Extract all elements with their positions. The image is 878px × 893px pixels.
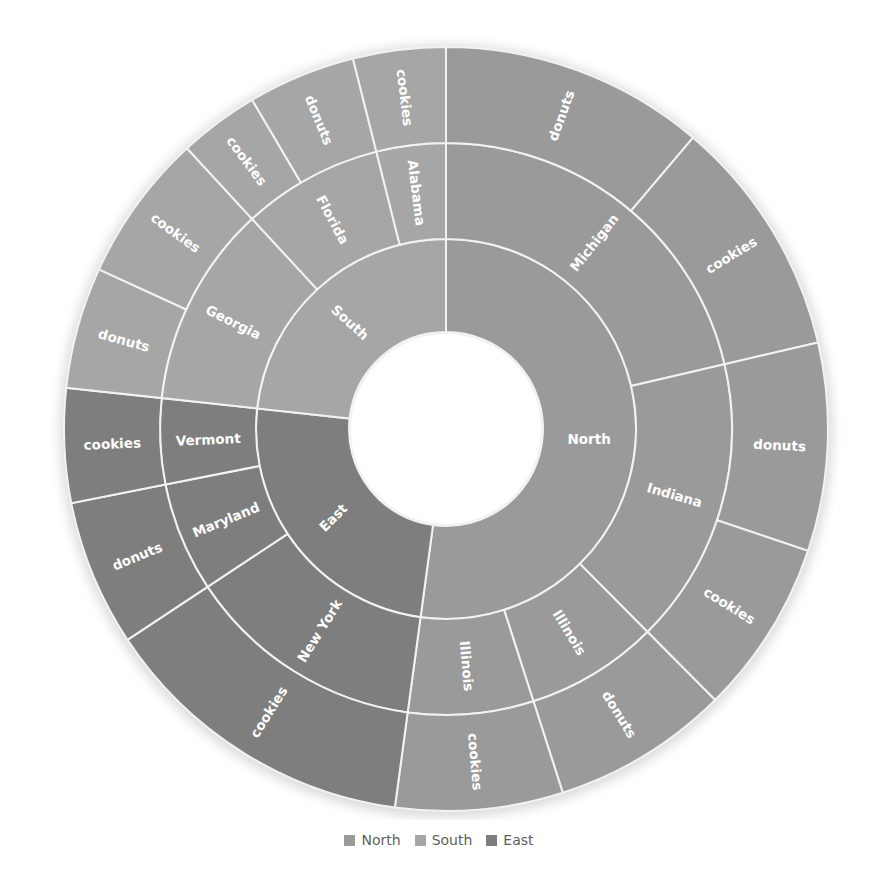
label-east-vermont-2-cookies-0: cookies [83,434,141,452]
legend-swatch-east [486,835,497,846]
legend-label-south: South [432,832,473,848]
legend-label-north: North [361,832,400,848]
label-north-indiana-1-donuts-0: donuts [753,436,806,455]
legend-swatch-north [344,835,355,846]
legend-swatch-south [415,835,426,846]
legend-item-south[interactable]: South [415,832,473,848]
legend-label-east: East [503,832,533,848]
legend-item-east[interactable]: East [486,832,533,848]
center-hole [350,333,542,525]
sunburst-chart: NorthMichigandonutscookiesIndianadonutsc… [0,0,878,820]
chart-legend: North South East [0,832,878,848]
label-east-vermont-2: Vermont [175,430,241,449]
label-north: North [568,431,611,447]
legend-item-north[interactable]: North [344,832,400,848]
sunburst-svg: NorthMichigandonutscookiesIndianadonutsc… [0,0,878,820]
